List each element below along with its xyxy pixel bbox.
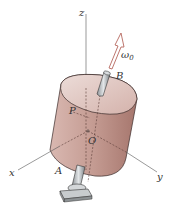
disk-rotation-diagram: z x y O P B ω0	[0, 0, 176, 206]
bearing-support	[60, 184, 92, 202]
point-p-label: P	[68, 105, 76, 116]
z-axis-label: z	[78, 7, 85, 18]
cylinder	[50, 74, 137, 176]
y-axis-label: y	[156, 171, 163, 182]
x-axis-label: x	[9, 167, 15, 178]
point-a-label: A	[54, 165, 62, 176]
origin-label: O	[88, 135, 96, 146]
omega-label: ω0	[121, 49, 134, 62]
point-b-label: B	[115, 70, 123, 81]
y-axis: y	[126, 152, 163, 182]
